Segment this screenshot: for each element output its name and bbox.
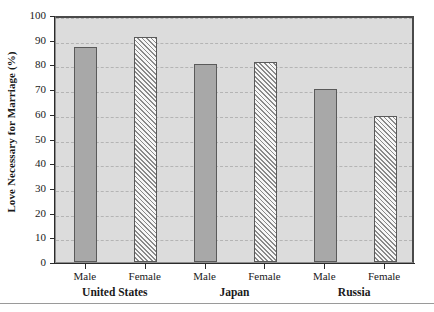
gridline <box>56 43 412 44</box>
y-axis-tick <box>50 65 55 66</box>
x-axis-tick <box>324 263 325 269</box>
x-axis-label-male: Male <box>55 270 115 282</box>
gridline <box>56 18 412 19</box>
gridline <box>56 67 412 68</box>
x-axis-label-female: Female <box>234 270 294 282</box>
bar-japan-female <box>254 62 277 262</box>
bar-united-states-male <box>74 47 97 262</box>
bar-russia-female <box>374 116 397 262</box>
x-axis-label-female: Female <box>115 270 175 282</box>
group-label-united-states: United States <box>55 286 175 298</box>
y-axis-tick-label: 90 <box>14 35 46 46</box>
y-axis-tick <box>50 214 55 215</box>
y-axis-tick <box>50 41 55 42</box>
y-axis-tick-label: 70 <box>14 84 46 95</box>
y-axis-tick <box>50 189 55 190</box>
y-axis-tick <box>50 238 55 239</box>
chart-figure: Love Necessary for Marriage (%) 01020304… <box>0 0 434 312</box>
x-axis-label-female: Female <box>354 270 414 282</box>
x-axis-tick <box>264 263 265 269</box>
y-axis-tick-label: 40 <box>14 158 46 169</box>
bar-united-states-female <box>134 37 157 262</box>
y-axis-tick <box>50 140 55 141</box>
y-axis-tick-label: 60 <box>14 109 46 120</box>
y-axis-tick-label: 50 <box>14 134 46 145</box>
y-axis-tick-label: 0 <box>14 257 46 268</box>
y-axis-tick-label: 100 <box>14 10 46 21</box>
group-label-japan: Japan <box>175 286 295 298</box>
gridline <box>56 142 412 143</box>
y-axis-tick-label: 30 <box>14 183 46 194</box>
x-axis-label-male: Male <box>294 270 354 282</box>
bar-japan-male <box>194 64 217 262</box>
y-axis-tick <box>50 16 55 17</box>
group-label-russia: Russia <box>294 286 414 298</box>
x-axis-label-male: Male <box>175 270 235 282</box>
x-axis-tick <box>205 263 206 269</box>
plot-area <box>55 16 414 263</box>
x-axis-tick <box>384 263 385 269</box>
gridline <box>56 92 412 93</box>
y-axis-tick <box>50 164 55 165</box>
y-axis-tick-label: 10 <box>14 232 46 243</box>
x-axis-tick <box>85 263 86 269</box>
y-axis-tick-label: 80 <box>14 59 46 70</box>
y-axis-tick-label: 20 <box>14 208 46 219</box>
bar-russia-male <box>314 89 337 262</box>
gridline <box>56 240 412 241</box>
y-axis-tick <box>50 115 55 116</box>
gridline <box>56 117 412 118</box>
y-axis-tick <box>50 90 55 91</box>
gridline <box>56 166 412 167</box>
x-axis-tick <box>145 263 146 269</box>
y-axis-tick <box>50 263 55 264</box>
gridline <box>56 191 412 192</box>
x-axis-line <box>54 263 415 264</box>
bottom-divider <box>0 303 434 304</box>
gridline <box>56 216 412 217</box>
